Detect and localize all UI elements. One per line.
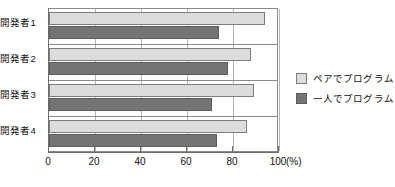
legend-item-pair: ペアでプログラム [296,68,392,88]
gridline [279,9,280,151]
x-tick-label: 20 [88,156,99,167]
bar-solo-programming [49,98,212,111]
chart-legend: ペアでプログラム 一人でプログラム [296,68,392,108]
category-label-2: 開発者2 [0,51,44,65]
x-tick [186,146,187,153]
x-tick-label: 0 [45,156,51,167]
legend-label-solo: 一人でプログラム [313,91,394,105]
x-tick-label: 60 [180,156,191,167]
legend-item-solo: 一人でプログラム [296,88,392,108]
bar-pair-programming [49,12,265,25]
x-axis-unit-label: (%) [286,156,302,167]
category-label-4: 開発者4 [0,123,44,137]
bar-pair-programming [49,84,254,97]
bar-row [49,117,277,153]
legend-swatch-solo-icon [296,93,307,104]
legend-label-pair: ペアでプログラム [313,71,394,85]
bar-pair-programming [49,48,251,61]
x-tick [140,146,141,153]
x-tick [278,146,279,153]
category-label-3: 開発者3 [0,87,44,101]
x-tick [94,146,95,153]
bar-pair-programming [49,120,247,133]
legend-swatch-pair-icon [296,73,307,84]
x-tick [232,146,233,153]
category-label-1: 開発者1 [0,15,44,29]
x-tick-label: 80 [226,156,237,167]
x-tick-label: 40 [134,156,145,167]
bar-row [49,45,277,81]
bar-solo-programming [49,62,228,75]
x-tick-label: 100 [270,156,287,167]
x-axis-line [48,152,279,153]
bar-solo-programming [49,26,219,39]
bar-chart: 開発者1開発者2開発者3開発者4 020406080100 (%) ペアでプログ… [0,0,395,187]
plot-area [48,8,278,152]
bar-row [49,81,277,117]
bar-row [49,9,277,45]
x-tick [48,146,49,153]
bar-solo-programming [49,134,217,147]
